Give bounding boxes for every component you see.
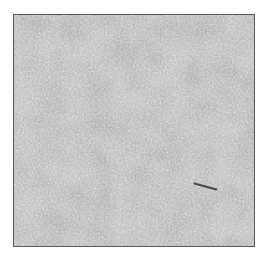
micrograph-texture (14, 15, 254, 246)
histology-micrograph (13, 14, 255, 247)
page-canvas (0, 0, 265, 255)
